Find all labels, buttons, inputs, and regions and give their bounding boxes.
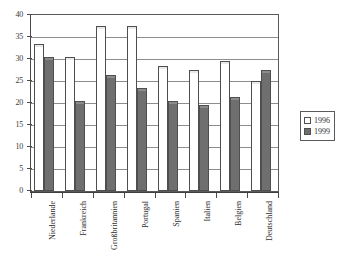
bar-1999 [261,72,271,191]
x-axis-label: Belgien [235,201,243,226]
bar-top-cap [106,75,116,78]
bar-top-cap [199,105,209,108]
y-axis-tick-label: 0 [19,187,23,195]
bar-group [93,15,124,191]
y-axis-tick-label: 25 [15,77,23,85]
bar-1996 [34,46,44,191]
bar-top-cap [261,70,271,73]
dark-square-swatch-icon [304,128,311,135]
bar-1999 [230,99,240,191]
y-axis-tick-label: 5 [19,165,23,173]
x-axis-label: Spanien [173,201,181,227]
bar-1996 [127,28,137,191]
x-axis-label: Niederlande [49,201,57,240]
y-axis-tick-label: 15 [15,121,23,129]
x-axis-label: Italien [204,201,212,221]
bar-1996 [251,83,261,191]
bar-groups [31,15,278,191]
x-axis-label: Großbritannien [111,201,119,250]
bar-1996 [96,28,106,191]
y-axis-tick-label: 10 [15,143,23,151]
bar-top-cap [220,61,230,64]
bar-top-cap [230,97,240,100]
bar-group [31,15,62,191]
y-axis-tick-label: 20 [15,99,23,107]
bar-1999 [106,77,116,191]
bar-group [124,15,155,191]
bar-top-cap [189,70,199,73]
bar-1999 [44,59,54,191]
bar-group [216,15,247,191]
bar-chart: 0510152025303540 NiederlandeFrankreichGr… [0,0,349,269]
bar-1999 [137,90,147,191]
legend: 1996 1999 [300,111,335,141]
bar-top-cap [168,101,178,104]
legend-item-1999: 1999 [304,126,330,137]
bar-group [155,15,186,191]
y-axis-tick-label: 35 [15,33,23,41]
bar-1999 [168,103,178,191]
bar-1996 [65,59,75,191]
bar-1996 [189,72,199,191]
bar-group [247,15,278,191]
bar-group [185,15,216,191]
legend-label: 1999 [314,128,330,136]
legend-item-1996: 1996 [304,115,330,126]
bar-top-cap [44,57,54,60]
bar-top-cap [127,26,137,29]
bar-top-cap [34,44,44,47]
bar-group [62,15,93,191]
bar-top-cap [75,101,85,104]
bar-1996 [220,63,230,191]
bar-top-cap [158,66,168,69]
x-axis-label: Portugal [142,201,150,228]
bar-top-cap [96,26,106,29]
bar-1996 [158,68,168,191]
x-axis-label: Deutschland [266,201,274,241]
x-axis-labels: NiederlandeFrankreichGroßbritannienPortu… [30,197,279,267]
y-axis-tick-label: 30 [15,55,23,63]
y-axis-tick-label: 40 [15,11,23,19]
x-axis-label: Frankreich [80,201,88,236]
white-square-swatch-icon [304,117,311,124]
bar-1999 [75,103,85,191]
bar-1999 [199,107,209,191]
bar-top-cap [65,57,75,60]
bar-top-cap [137,88,147,91]
x-axis [30,192,279,193]
bar-top-cap [251,81,261,84]
legend-label: 1996 [314,117,330,125]
